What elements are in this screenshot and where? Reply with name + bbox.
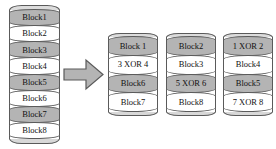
source-disk-block-5: Block5 (9, 74, 60, 91)
transform-arrow (63, 58, 104, 91)
target-disk-3-body: 1 XOR 2Block4Block57 XOR 8 (223, 37, 273, 112)
target-disk-3-block-3-label: Block5 (236, 79, 261, 88)
target-disk-1-block-2-label: 3 XOR 4 (118, 60, 149, 69)
source-disk-block-1: Block1 (9, 9, 60, 26)
target-disk-1-block-2: 3 XOR 4 (108, 55, 158, 75)
target-disk-2: Block2Block35 XOR 6Block8 (166, 33, 216, 116)
target-disk-3-block-2-label: Block4 (236, 60, 261, 69)
target-disk-2-block-3: 5 XOR 6 (166, 74, 216, 94)
target-disk-1-block-3: Block6 (108, 74, 158, 94)
target-disk-3-block-3: Block5 (223, 74, 273, 94)
target-disk-2-block-4-label: Block8 (179, 98, 204, 107)
source-disk-block-4: Block4 (9, 57, 60, 74)
target-disk-2-body: Block2Block35 XOR 6Block8 (166, 37, 216, 112)
target-disk-3-block-4: 7 XOR 8 (223, 92, 273, 112)
target-disk-3-block-4-label: 7 XOR 8 (233, 98, 264, 107)
source-disk-block-3-label: Block3 (22, 46, 47, 55)
target-disk-1-block-3-label: Block6 (121, 79, 146, 88)
source-disk: Block1Block2Block3Block4Block5Block6Bloc… (9, 5, 60, 144)
target-disk-2-block-3-label: 5 XOR 6 (176, 79, 207, 88)
source-disk-block-6-label: Block6 (22, 94, 47, 103)
target-disk-2-block-1: Block2 (166, 36, 216, 56)
target-disk-3-block-1-label: 1 XOR 2 (233, 42, 264, 51)
target-disk-1-block-4-label: Block7 (121, 98, 146, 107)
target-disk-1-block-1: Block 1 (108, 36, 158, 56)
source-disk-block-4-label: Block4 (22, 62, 47, 71)
source-disk-block-6: Block6 (9, 90, 60, 107)
source-disk-block-1-label: Block1 (22, 13, 47, 22)
arrow-right-icon (63, 58, 104, 91)
target-disk-2-block-1-label: Block2 (179, 42, 204, 51)
target-disk-3: 1 XOR 2Block4Block57 XOR 8 (223, 33, 273, 116)
target-disk-2-block-2: Block3 (166, 55, 216, 75)
target-disk-3-block-1: 1 XOR 2 (223, 36, 273, 56)
target-disk-2-block-2-label: Block3 (179, 60, 204, 69)
source-disk-block-2: Block2 (9, 25, 60, 42)
target-disk-2-block-4: Block8 (166, 92, 216, 112)
source-disk-block-2-label: Block2 (22, 29, 47, 38)
raid-block-distribution-diagram: Block1Block2Block3Block4Block5Block6Bloc… (0, 0, 276, 149)
target-disk-1-body: Block 13 XOR 4Block6Block7 (108, 37, 158, 112)
target-disk-3-block-2: Block4 (223, 55, 273, 75)
target-disk-1: Block 13 XOR 4Block6Block7 (108, 33, 158, 116)
target-disk-1-block-1-label: Block 1 (120, 42, 147, 51)
source-disk-block-8-label: Block8 (22, 126, 47, 135)
source-disk-block-8: Block8 (9, 122, 60, 139)
source-disk-block-7-label: Block7 (22, 110, 47, 119)
source-disk-block-5-label: Block5 (22, 78, 47, 87)
source-disk-body: Block1Block2Block3Block4Block5Block6Bloc… (9, 10, 60, 139)
source-disk-block-3: Block3 (9, 41, 60, 58)
target-disk-1-block-4: Block7 (108, 92, 158, 112)
source-disk-block-7: Block7 (9, 106, 60, 123)
